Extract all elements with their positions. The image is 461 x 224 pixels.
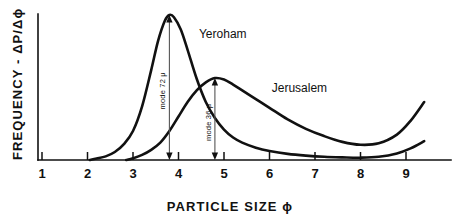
curve-yeroham xyxy=(90,15,424,160)
x-tick-label-9: 9 xyxy=(402,166,409,181)
x-tick-label-5: 5 xyxy=(220,166,227,181)
x-tick-label-7: 7 xyxy=(311,166,318,181)
series-labels: YerohamJerusalem xyxy=(199,27,327,95)
particle-size-frequency-chart: FREQUENCY - ΔP/Δϕ PARTICLE SIZE ϕ 123456… xyxy=(0,0,461,224)
x-tick-label-8: 8 xyxy=(357,166,364,181)
x-tick-label-4: 4 xyxy=(175,166,183,181)
mode-arrowhead-down-jerusalem xyxy=(212,153,218,161)
mode-annotation-jerusalem: mode 36 μ xyxy=(204,104,213,141)
x-tick-label-6: 6 xyxy=(266,166,273,181)
y-axis-title: FREQUENCY - ΔP/Δϕ xyxy=(10,8,25,160)
x-tick-label-3: 3 xyxy=(129,166,136,181)
x-tick-label-2: 2 xyxy=(84,166,91,181)
x-axis-title: PARTICLE SIZE ϕ xyxy=(167,199,293,214)
chart-figure: FREQUENCY - ΔP/Δϕ PARTICLE SIZE ϕ 123456… xyxy=(0,0,461,224)
x-axis-tick-labels: 123456789 xyxy=(38,166,409,181)
data-curves xyxy=(90,15,424,160)
series-label-yeroham: Yeroham xyxy=(199,27,247,41)
x-tick-label-1: 1 xyxy=(38,166,45,181)
series-label-jerusalem: Jerusalem xyxy=(272,81,327,95)
mode-annotation-yeroham: mode 72 μ xyxy=(158,72,167,109)
mode-arrowhead-down-yeroham xyxy=(166,153,172,161)
